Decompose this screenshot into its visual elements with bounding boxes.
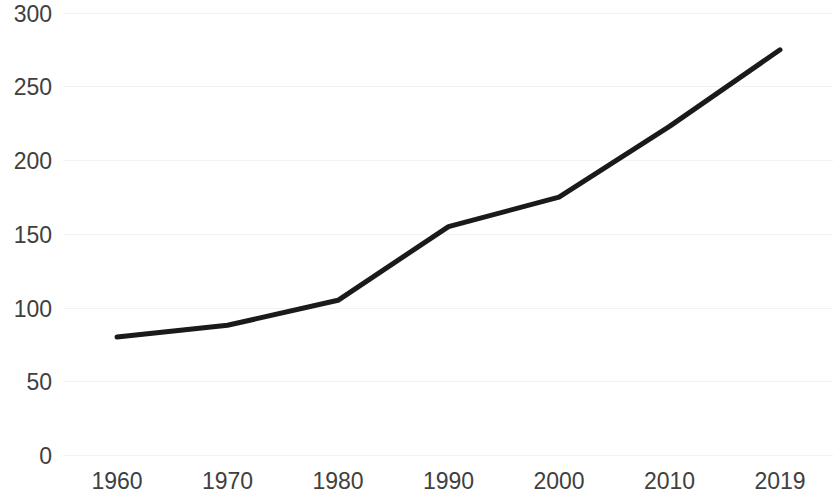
ytick-label-0: 0	[0, 445, 52, 468]
gridline-200	[63, 160, 833, 161]
gridline-250	[63, 86, 833, 87]
xtick-label-1990: 1990	[394, 470, 504, 493]
plot-area: 300 250 200 150 100 50 0 1960 1970 1980 …	[0, 0, 835, 503]
xtick-label-1960: 1960	[62, 470, 172, 493]
xtick-label-1980: 1980	[283, 470, 393, 493]
data-series-line	[0, 0, 835, 503]
ytick-label-100: 100	[0, 298, 52, 321]
gridline-300	[63, 13, 833, 14]
gridline-100	[63, 308, 833, 309]
gridline-0	[63, 455, 833, 456]
line-chart: 300 250 200 150 100 50 0 1960 1970 1980 …	[0, 0, 835, 503]
xtick-label-2019: 2019	[725, 470, 835, 493]
xtick-label-2010: 2010	[615, 470, 725, 493]
ytick-label-300: 300	[0, 3, 52, 26]
xtick-label-1970: 1970	[173, 470, 283, 493]
ytick-label-50: 50	[0, 371, 52, 394]
gridline-50	[63, 381, 833, 382]
gridline-150	[63, 234, 833, 235]
ytick-label-250: 250	[0, 76, 52, 99]
ytick-label-150: 150	[0, 224, 52, 247]
xtick-label-2000: 2000	[504, 470, 614, 493]
ytick-label-200: 200	[0, 150, 52, 173]
